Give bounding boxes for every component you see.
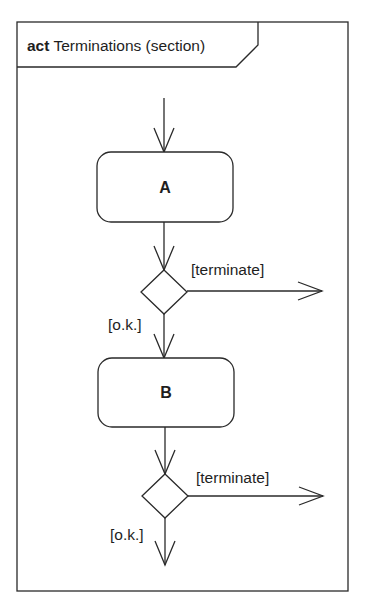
action-a-label: A — [97, 180, 233, 196]
activity-diagram — [0, 0, 365, 605]
flow-decision-2-terminate — [188, 487, 323, 505]
decision-2-terminate-guard: [terminate] — [196, 470, 269, 486]
decision-2-node[interactable] — [142, 474, 188, 518]
flow-decision-2-ok — [155, 518, 175, 565]
action-b-label: B — [98, 385, 234, 401]
flow-b-to-decision-2 — [155, 427, 175, 474]
frame-keyword: act — [27, 37, 49, 54]
decision-1-ok-guard: [o.k.] — [108, 317, 142, 333]
flow-initial-to-a — [154, 98, 174, 152]
decision-2-ok-guard: [o.k.] — [110, 527, 144, 543]
decision-1-node[interactable] — [141, 270, 187, 314]
flow-a-to-decision-1 — [154, 222, 174, 270]
frame-title: act Terminations (section) — [27, 38, 205, 54]
flow-decision-1-ok-to-b — [154, 314, 174, 358]
activity-frame — [17, 22, 348, 591]
flow-decision-1-terminate — [187, 282, 322, 300]
frame-name: Terminations (section) — [53, 37, 205, 54]
decision-1-terminate-guard: [terminate] — [191, 262, 264, 278]
